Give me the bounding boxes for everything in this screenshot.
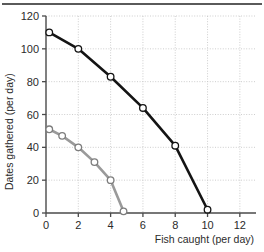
- data-point-marker: [172, 142, 179, 149]
- y-tick-label: 40: [27, 141, 39, 153]
- data-point-marker: [140, 105, 147, 112]
- data-point-marker: [120, 208, 127, 215]
- data-point-marker: [75, 144, 82, 151]
- data-markers-group: [46, 29, 211, 215]
- y-tick-label: 120: [21, 10, 39, 22]
- x-tick-label: 4: [108, 219, 114, 231]
- x-tick-label: 0: [43, 219, 49, 231]
- y-axis-tick-labels: 020406080100120: [21, 10, 39, 219]
- chart-figure: 020406080100120 024681012 Dates gathered…: [0, 0, 264, 252]
- data-point-marker: [91, 159, 98, 166]
- x-tick-label: 10: [201, 219, 213, 231]
- y-axis-title: Dates gathered (per day): [3, 73, 15, 190]
- x-tick-label: 2: [75, 219, 81, 231]
- y-tick-label: 100: [21, 43, 39, 55]
- data-point-marker: [204, 206, 211, 213]
- x-axis-title: Fish caught (per day): [155, 233, 254, 245]
- data-point-marker: [59, 133, 66, 140]
- data-point-marker: [46, 29, 53, 36]
- series-line-inner-frontier: [49, 129, 123, 211]
- series-line-outer-frontier: [49, 32, 207, 209]
- y-tick-label: 0: [33, 207, 39, 219]
- data-point-marker: [75, 46, 82, 53]
- data-point-marker: [46, 126, 53, 133]
- y-tick-label: 60: [27, 109, 39, 121]
- data-point-marker: [107, 177, 114, 184]
- chart-plot-area: 020406080100120 024681012 Dates gathered…: [0, 0, 264, 252]
- data-series-group: [49, 32, 207, 211]
- x-axis-tick-labels: 024681012: [43, 219, 246, 231]
- x-tick-label: 12: [234, 219, 246, 231]
- data-point-marker: [107, 73, 114, 80]
- y-tick-label: 80: [27, 76, 39, 88]
- x-tick-label: 8: [172, 219, 178, 231]
- x-tick-label: 6: [140, 219, 146, 231]
- y-tick-label: 20: [27, 174, 39, 186]
